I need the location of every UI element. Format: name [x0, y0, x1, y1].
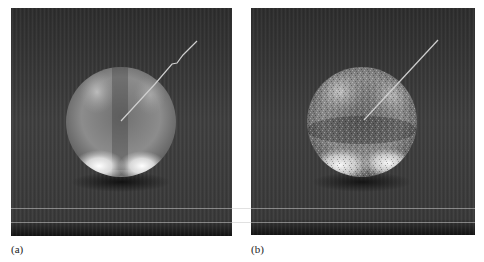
- scan-line-lower: [11, 222, 475, 223]
- sphere-render-b: [251, 8, 475, 235]
- sphere-render-a: [11, 8, 232, 236]
- scan-line-upper: [11, 208, 475, 209]
- figure: (a) (b): [0, 0, 484, 262]
- panel-b-label: (b): [251, 243, 264, 255]
- panel-a-image: [11, 8, 232, 236]
- panel-a-label: (a): [11, 243, 23, 255]
- panel-b-image: [251, 8, 475, 235]
